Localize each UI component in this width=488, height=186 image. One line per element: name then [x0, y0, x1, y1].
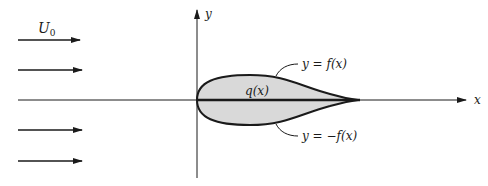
source-label: q(x)	[245, 84, 269, 98]
lower-curve-label: y = −f(x)	[301, 129, 357, 143]
y-axis-label: y	[204, 7, 212, 21]
lower-leader-line	[276, 124, 298, 136]
freestream-label: U0	[38, 20, 56, 38]
upper-leader-line	[276, 64, 298, 76]
upper-curve-label: y = f(x)	[301, 57, 347, 71]
slender-body-diagram: U0 x y q(x) y = f(x) y = −f(x)	[0, 0, 488, 186]
x-axis-label: x	[474, 93, 481, 107]
